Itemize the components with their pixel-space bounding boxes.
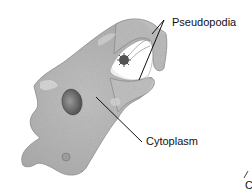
vacuole [62, 153, 70, 161]
amoeba-diagram: Pseudopodia Cytoplasm C [0, 0, 252, 190]
pseudopodia-label: Pseudopodia [172, 17, 236, 28]
partial-label: C [245, 180, 252, 190]
cytoplasm-label: Cytoplasm [146, 136, 198, 147]
partial-leader [244, 171, 248, 178]
amoeba-illustration [0, 0, 252, 190]
